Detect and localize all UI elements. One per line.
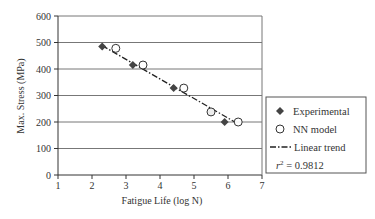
nn-model-point — [112, 44, 120, 52]
x-tick-label: 5 — [192, 180, 197, 191]
nn-model-point — [139, 61, 147, 69]
gridlines — [58, 16, 262, 149]
y-tick-labels: 0100200300400500600 — [36, 11, 51, 181]
svg-text:NN model: NN model — [293, 124, 337, 135]
y-axis-title: Max. Stress (MPa) — [15, 58, 27, 133]
x-tick-labels: 1234567 — [56, 180, 265, 191]
nn-model-point — [207, 108, 215, 116]
legend: Experimental NN model Linear trend r2 = … — [266, 97, 366, 173]
svg-text:Experimental: Experimental — [293, 106, 350, 117]
x-tick-label: 3 — [124, 180, 129, 191]
x-axis-title: Fatigue Life (log N) — [122, 195, 203, 207]
y-tick-label: 200 — [36, 117, 51, 128]
svg-text:Linear trend: Linear trend — [294, 142, 346, 153]
experimental-point — [170, 84, 178, 92]
x-tick-label: 6 — [226, 180, 231, 191]
axes — [54, 16, 262, 179]
y-tick-label: 500 — [36, 37, 51, 48]
y-tick-label: 300 — [36, 90, 51, 101]
x-tick-label: 1 — [56, 180, 61, 191]
open-circle-icon — [276, 125, 284, 133]
x-tick-label: 7 — [260, 180, 265, 191]
experimental-point — [98, 42, 106, 50]
y-tick-label: 400 — [36, 64, 51, 75]
nn-model-point — [234, 118, 242, 126]
experimental-point — [221, 118, 229, 126]
y-tick-label: 0 — [46, 170, 51, 181]
nn-model-point — [180, 84, 188, 92]
y-tick-label: 100 — [36, 143, 51, 154]
x-tick-label: 4 — [158, 180, 163, 191]
y-tick-label: 600 — [36, 11, 51, 22]
x-tick-label: 2 — [90, 180, 95, 191]
r-squared-annotation: r2 = 0.9812 — [276, 159, 324, 171]
chart: 0100200300400500600 1234567 Max. Stress … — [0, 0, 375, 219]
